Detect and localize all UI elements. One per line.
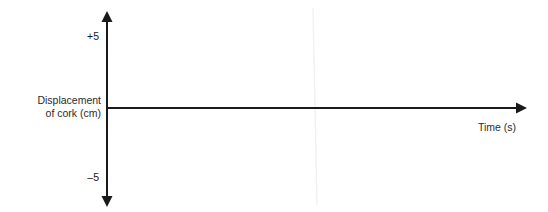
scan-artifact-line <box>313 8 317 205</box>
y-axis-arrowhead-top-icon <box>102 11 113 22</box>
x-axis-arrowhead-icon <box>516 103 527 114</box>
displacement-time-chart: +5 –5 Displacement of cork (cm) Time (s) <box>0 0 548 212</box>
y-tick-label-plus5: +5 <box>87 30 99 42</box>
y-tick-label-minus5: –5 <box>87 171 99 183</box>
y-axis-label-line1: Displacement <box>37 94 101 106</box>
y-axis-label-line2: of cork (cm) <box>46 107 101 119</box>
x-axis-label: Time (s) <box>478 121 516 133</box>
y-axis-arrowhead-bottom-icon <box>102 196 113 207</box>
